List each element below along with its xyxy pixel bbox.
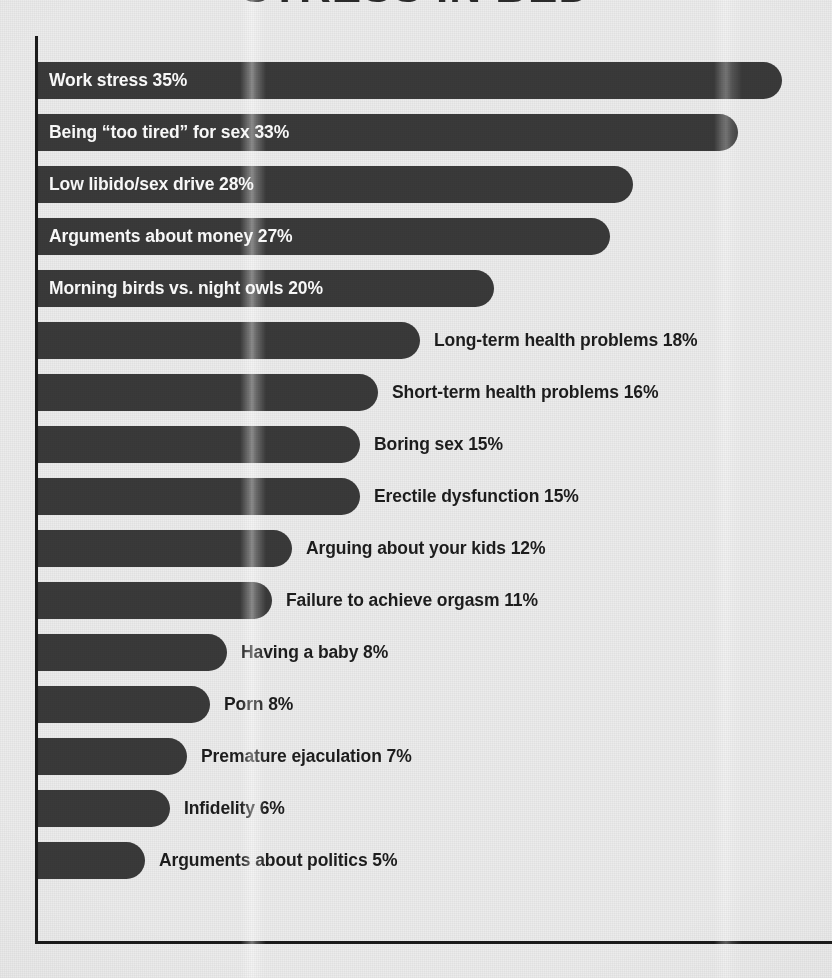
bar <box>35 790 170 827</box>
bar <box>35 582 272 619</box>
bar-label-value: 11% <box>504 590 538 610</box>
bar-label: Infidelity 6% <box>184 790 285 827</box>
bar-row: Erectile dysfunction 15% <box>0 470 832 522</box>
bar-label-text: Long-term health problems <box>434 330 663 350</box>
bar-row: Arguing about your kids 12% <box>0 522 832 574</box>
bar <box>35 686 210 723</box>
bar-label-value: 15% <box>544 486 579 506</box>
bar-row: Premature ejaculation 7% <box>0 730 832 782</box>
bar-label-value: 5% <box>372 850 397 870</box>
bar-label: Being “too tired” for sex 33% <box>49 114 289 151</box>
bar-label-value: 27% <box>258 226 293 246</box>
page-title: STRESS IN BED <box>0 0 832 12</box>
bar-label-value: 7% <box>387 746 412 766</box>
bar-label-text: Arguing about your kids <box>306 538 511 558</box>
bar-label-text: Arguments about politics <box>159 850 372 870</box>
bar-label: Low libido/sex drive 28% <box>49 166 254 203</box>
bar-label-text: Arguments about money <box>49 226 258 246</box>
bar <box>35 634 227 671</box>
infographic-canvas: STRESS IN BED Work stress 35%Being “too … <box>0 0 832 978</box>
bar <box>35 478 360 515</box>
bar-label: Morning birds vs. night owls 20% <box>49 270 323 307</box>
bar-row: Arguments about politics 5% <box>0 834 832 886</box>
bar-label-text: Work stress <box>49 70 153 90</box>
bar-label-text: Having a baby <box>241 642 363 662</box>
x-axis-line <box>35 941 832 944</box>
bar-row: Low libido/sex drive 28% <box>0 158 832 210</box>
bar-label-value: 12% <box>511 538 546 558</box>
bar-label-value: 6% <box>260 798 285 818</box>
bar-label-text: Erectile dysfunction <box>374 486 544 506</box>
bar-label: Porn 8% <box>224 686 293 723</box>
bar-label-value: 16% <box>624 382 659 402</box>
bar-row: Morning birds vs. night owls 20% <box>0 262 832 314</box>
bar <box>35 374 378 411</box>
bar-label: Erectile dysfunction 15% <box>374 478 579 515</box>
y-axis-line <box>35 36 38 944</box>
bar-label: Arguing about your kids 12% <box>306 530 545 567</box>
bar-label: Having a baby 8% <box>241 634 388 671</box>
bar-label-text: Premature ejaculation <box>201 746 387 766</box>
bar-label-text: Low libido/sex drive <box>49 174 219 194</box>
bar-label: Boring sex 15% <box>374 426 503 463</box>
bar-label-text: Porn <box>224 694 268 714</box>
bar-label-value: 8% <box>268 694 293 714</box>
bar-row: Long-term health problems 18% <box>0 314 832 366</box>
bar-label-text: Failure to achieve orgasm <box>286 590 504 610</box>
bar-label-value: 18% <box>663 330 698 350</box>
bar-label-value: 20% <box>288 278 323 298</box>
bar <box>35 426 360 463</box>
bar-label-text: Morning birds vs. night owls <box>49 278 288 298</box>
bar-label-value: 35% <box>153 70 188 90</box>
bar-row: Work stress 35% <box>0 54 832 106</box>
bar-label-text: Infidelity <box>184 798 260 818</box>
bar-row: Having a baby 8% <box>0 626 832 678</box>
bar-label: Premature ejaculation 7% <box>201 738 412 775</box>
bar-label-value: 8% <box>363 642 388 662</box>
bar-chart-plot-area: Work stress 35%Being “too tired” for sex… <box>0 0 832 944</box>
bar-label: Short-term health problems 16% <box>392 374 658 411</box>
bar-label-text: Boring sex <box>374 434 468 454</box>
bar-row: Porn 8% <box>0 678 832 730</box>
bar-label: Arguments about money 27% <box>49 218 293 255</box>
bar-label: Long-term health problems 18% <box>434 322 698 359</box>
bar-label-value: 15% <box>468 434 503 454</box>
bar-label-value: 28% <box>219 174 254 194</box>
bar <box>35 738 187 775</box>
bar-row: Infidelity 6% <box>0 782 832 834</box>
bar <box>35 530 292 567</box>
bar-label: Work stress 35% <box>49 62 187 99</box>
bar-row: Short-term health problems 16% <box>0 366 832 418</box>
bar-row: Arguments about money 27% <box>0 210 832 262</box>
bar <box>35 842 145 879</box>
bar-row: Boring sex 15% <box>0 418 832 470</box>
bar-label-text: Being “too tired” for sex <box>49 122 254 142</box>
bar-label: Arguments about politics 5% <box>159 842 397 879</box>
bar-label: Failure to achieve orgasm 11% <box>286 582 538 619</box>
bar-label-value: 33% <box>254 122 289 142</box>
bar-row: Failure to achieve orgasm 11% <box>0 574 832 626</box>
bar-label-text: Short-term health problems <box>392 382 624 402</box>
bar <box>35 322 420 359</box>
bar-row: Being “too tired” for sex 33% <box>0 106 832 158</box>
